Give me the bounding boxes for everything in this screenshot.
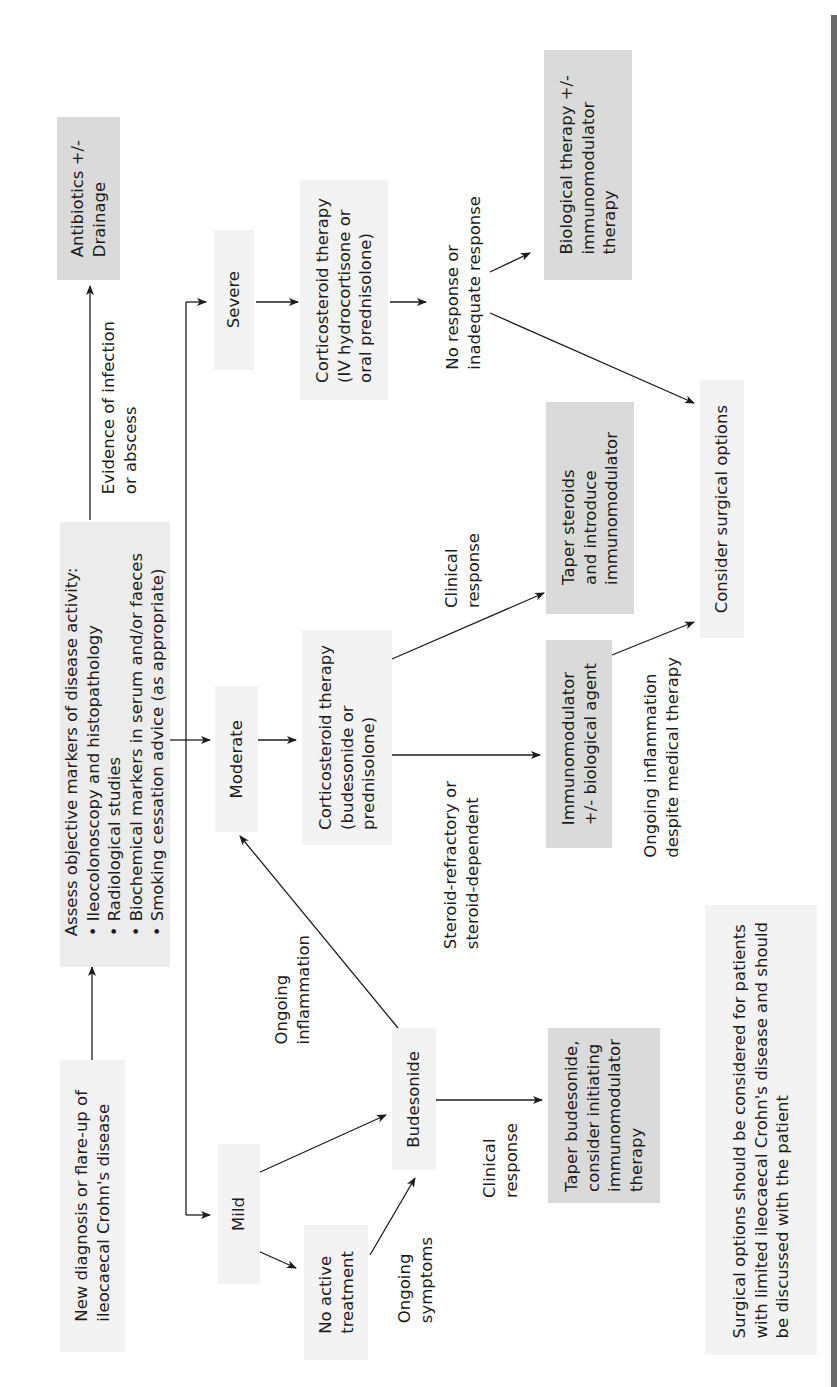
node-assess: Assess objective markers of disease acti… — [60, 522, 170, 967]
edge-label-clinical-response-mild: Clinical response — [470, 1110, 530, 1210]
node-budesonide: Budesonide — [392, 1028, 436, 1170]
node-start-text: New diagnosis or flare-up of ileocaecal … — [71, 1090, 114, 1322]
node-immunomodulator: Immunomodulator +/- biological agent — [546, 640, 612, 848]
edge-label-no-response: No response or inadequate response — [432, 180, 494, 385]
page-edge-bar — [831, 15, 837, 1387]
assess-bullet-1: • Ileocolonoscopy and histopathology — [83, 553, 105, 936]
assess-bullet-3: • Biochemical markers in serum and/or fa… — [126, 553, 148, 936]
node-corticosteroid-moderate: Corticosteroid therapy (budesonide or pr… — [302, 630, 392, 845]
assess-content: Assess objective markers of disease acti… — [61, 553, 169, 936]
assess-bullet-2: • Radiological studies — [104, 553, 126, 936]
node-moderate: Moderate — [215, 686, 258, 832]
edge-label-clinical-response-moderate: Clinical response — [432, 520, 492, 620]
node-no-active-treatment: No active treatment — [304, 1225, 368, 1360]
node-biological: Biological therapy +/- immunomodulator t… — [544, 50, 632, 280]
edge-label-infection: Evidence of infection or abscess — [98, 308, 160, 508]
node-corticosteroid-severe: Corticosteroid therapy (IV hydrocortison… — [300, 180, 388, 400]
note-surgical-options: Surgical options should be considered fo… — [705, 905, 817, 1355]
assess-bullet-4: • Smoking cessation advice (as appropria… — [147, 553, 169, 936]
node-start: New diagnosis or flare-up of ileocaecal … — [60, 1060, 125, 1352]
node-antibiotics-text: Antibiotics +/- Drainage — [67, 140, 110, 257]
node-taper-budesonide: Taper budesonide, consider initiating im… — [548, 1028, 660, 1203]
edge-label-steroid-refractory: Steroid-refractory or steroid-dependent — [430, 760, 492, 970]
assess-heading: Assess objective markers of disease acti… — [61, 553, 83, 936]
flowchart-canvas: New diagnosis or flare-up of ileocaecal … — [0, 0, 837, 1387]
node-antibiotics: Antibiotics +/- Drainage — [57, 117, 120, 280]
edge-label-ongoing-symptoms: Ongoing symptoms — [385, 1225, 445, 1335]
node-severe: Severe — [214, 230, 254, 370]
node-mild: Mild — [218, 1144, 260, 1284]
node-taper-steroids: Taper steroids and introduce immunomodul… — [546, 402, 634, 614]
edge-label-ongoing-despite: Ongoing inflammation despite medical the… — [630, 640, 692, 875]
node-surgical-options: Consider surgical options — [700, 380, 744, 638]
edge-label-ongoing-inflammation: Ongoing inflammation — [262, 920, 322, 1060]
